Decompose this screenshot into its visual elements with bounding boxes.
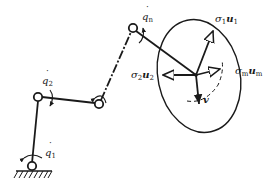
sigma1u1-arrow (196, 31, 213, 75)
subscript: 1 (51, 152, 55, 160)
dot-accent: ˙ (44, 69, 49, 79)
dot-accent: ˙ (47, 141, 52, 151)
sigma: σ (131, 69, 138, 80)
link-3-dashed (101, 32, 131, 100)
label-velocity-v: v (203, 95, 209, 105)
robot-links (32, 31, 196, 163)
subscript: 1 (234, 18, 238, 26)
ellipse-axes (163, 31, 220, 104)
link-1 (32, 101, 38, 163)
label-q2-dot: ˙q2 (42, 76, 53, 88)
label-sigma1-u1: σ1u1 (215, 14, 238, 26)
vector-u: u (142, 69, 149, 80)
rotation-indicators (24, 28, 144, 158)
link-2 (42, 97, 95, 103)
ground-base (14, 171, 52, 178)
vector-u: u (226, 13, 233, 24)
subscript: n (148, 16, 153, 24)
dot-accent: ˙ (144, 5, 149, 15)
label-q1-dot: ˙q1 (45, 148, 56, 160)
manipulability-diagram: ˙q1 ˙q2 ˙qn σ1u1 σ2u2 σmum v (0, 0, 274, 184)
joint-2 (34, 93, 42, 101)
sigma: σ (235, 65, 242, 76)
joint-3 (95, 100, 103, 108)
joint-n (129, 24, 137, 32)
subscript: 2 (150, 74, 154, 82)
label-sigmam-um: σmum (235, 66, 262, 78)
sigma: σ (215, 13, 222, 24)
sigmamum-arrow (196, 69, 220, 75)
subscript: m (256, 70, 263, 78)
vector-u: u (248, 65, 255, 76)
subscript: 2 (48, 80, 52, 88)
label-sigma2-u2: σ2u2 (131, 70, 154, 82)
label-qn-dot: ˙qn (142, 12, 153, 24)
velocity-v-arrow (196, 75, 199, 104)
joint-1 (28, 162, 36, 170)
end-effector-point (194, 73, 198, 77)
